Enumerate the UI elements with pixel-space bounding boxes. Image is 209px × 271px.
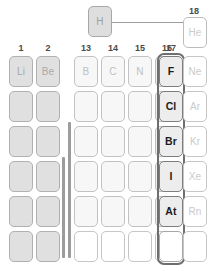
element-symbol: Cl [166, 101, 177, 112]
element-symbol: Be [42, 67, 54, 77]
element-symbol: He [189, 28, 202, 38]
element-cell-g15-r6[interactable] [128, 231, 152, 262]
element-symbol: F [168, 66, 175, 77]
dblock-collapse-bar-left [62, 157, 65, 258]
element-symbol: At [165, 206, 176, 217]
element-cell-g2-r5[interactable] [36, 196, 60, 227]
element-cell-kr[interactable]: Kr [183, 126, 207, 157]
element-symbol: H [96, 17, 103, 27]
element-symbol: Li [17, 67, 25, 77]
element-cell-g17-r6[interactable] [159, 231, 183, 262]
element-cell-g1-r4[interactable] [9, 161, 33, 192]
element-symbol: Kr [190, 137, 200, 147]
element-cell-g2-r3[interactable] [36, 126, 60, 157]
element-cell-g15-r4[interactable] [128, 161, 152, 192]
element-cell-g2-r2[interactable] [36, 91, 60, 122]
element-cell-g14-r6[interactable] [101, 231, 125, 262]
element-symbol: Ar [190, 102, 200, 112]
element-cell-g14-r4[interactable] [101, 161, 125, 192]
element-cell-g13-r4[interactable] [74, 161, 98, 192]
element-cell-ar[interactable]: Ar [183, 91, 207, 122]
element-cell-g1-r5[interactable] [9, 196, 33, 227]
element-cell-g1-r2[interactable] [9, 91, 33, 122]
element-cell-rn[interactable]: Rn [183, 196, 207, 227]
element-cell-g15-r3[interactable] [128, 126, 152, 157]
group-label-2: 2 [36, 44, 60, 53]
element-symbol: Rn [189, 207, 202, 217]
element-cell-h[interactable]: H [88, 6, 112, 37]
periodic-table-figure: H 18 He 1 2 13 14 15 16 17 Li Be B C N [0, 0, 209, 271]
element-symbol: N [136, 67, 143, 77]
element-symbol: I [169, 171, 172, 182]
element-cell-g2-r4[interactable] [36, 161, 60, 192]
element-cell-g14-r2[interactable] [101, 91, 125, 122]
group-label-17: 17 [159, 44, 183, 53]
element-cell-b[interactable]: B [74, 56, 98, 87]
element-cell-g14-r3[interactable] [101, 126, 125, 157]
element-cell-g1-r3[interactable] [9, 126, 33, 157]
element-cell-g18-r6[interactable] [183, 231, 207, 262]
element-symbol: Xe [189, 172, 201, 182]
element-cell-i[interactable]: I [159, 161, 183, 192]
hydrogen-helium-connector [112, 22, 183, 23]
element-cell-at[interactable]: At [159, 196, 183, 227]
element-cell-g13-r3[interactable] [74, 126, 98, 157]
element-symbol: B [83, 67, 90, 77]
element-cell-g14-r5[interactable] [101, 196, 125, 227]
element-cell-n[interactable]: N [128, 56, 152, 87]
element-cell-li[interactable]: Li [9, 56, 33, 87]
element-symbol: Br [165, 136, 177, 147]
element-symbol: C [109, 67, 116, 77]
element-cell-f[interactable]: F [159, 56, 183, 87]
element-cell-g13-r2[interactable] [74, 91, 98, 122]
element-cell-g2-r6[interactable] [36, 231, 60, 262]
element-cell-xe[interactable]: Xe [183, 161, 207, 192]
element-cell-g1-r6[interactable] [9, 231, 33, 262]
element-cell-g15-r2[interactable] [128, 91, 152, 122]
element-cell-c[interactable]: C [101, 56, 125, 87]
element-cell-g15-r5[interactable] [128, 196, 152, 227]
element-cell-g13-r6[interactable] [74, 231, 98, 262]
element-symbol: Ne [189, 67, 202, 77]
element-cell-cl[interactable]: Cl [159, 91, 183, 122]
element-cell-he[interactable]: He [183, 17, 207, 48]
element-cell-br[interactable]: Br [159, 126, 183, 157]
element-cell-ne[interactable]: Ne [183, 56, 207, 87]
group-label-14: 14 [101, 44, 125, 53]
group-label-18: 18 [182, 7, 206, 16]
element-cell-g13-r5[interactable] [74, 196, 98, 227]
group-label-13: 13 [74, 44, 98, 53]
group-label-1: 1 [9, 44, 33, 53]
dblock-collapse-bar-right [68, 122, 71, 258]
group-label-15: 15 [128, 44, 152, 53]
element-cell-be[interactable]: Be [36, 56, 60, 87]
